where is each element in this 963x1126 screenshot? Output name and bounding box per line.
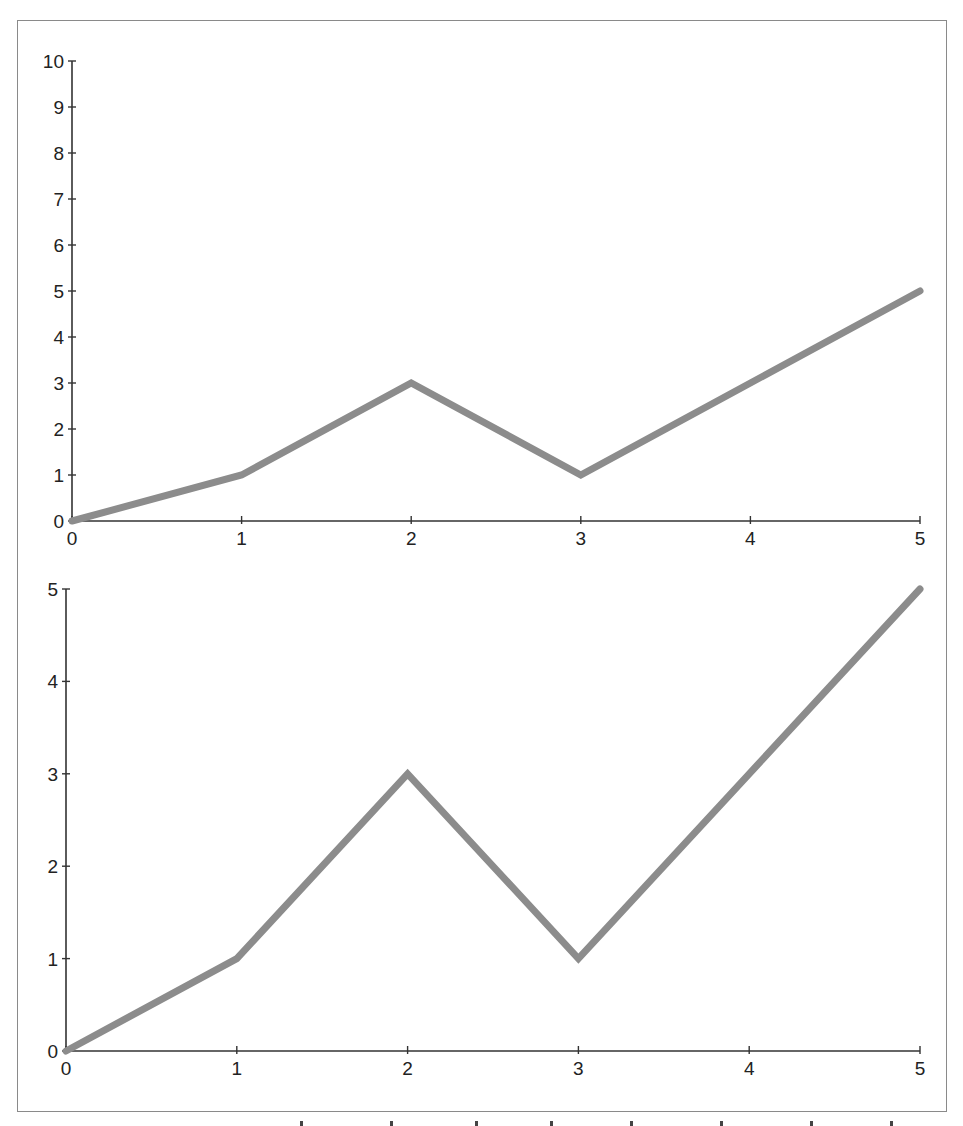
charts-canvas: 012345678910012345012345012345	[0, 0, 963, 1126]
y-tick-label: 5	[53, 281, 64, 302]
y-tick-label: 0	[53, 511, 64, 532]
x-tick-label: 4	[745, 528, 756, 549]
y-tick-label: 2	[53, 419, 64, 440]
bottom-chart: 012345012345	[47, 579, 925, 1079]
x-tick-label: 1	[236, 528, 247, 549]
y-tick-label: 8	[53, 143, 64, 164]
y-tick-label: 4	[47, 671, 58, 692]
y-tick-label: 1	[53, 465, 64, 486]
cutoff-caption-text	[300, 1118, 920, 1126]
y-tick-label: 4	[53, 327, 64, 348]
y-tick-label: 3	[47, 764, 58, 785]
x-tick-label: 2	[402, 1058, 413, 1079]
top-chart: 012345678910012345	[43, 51, 925, 549]
x-tick-label: 5	[915, 528, 926, 549]
x-tick-label: 5	[915, 1058, 926, 1079]
x-tick-label: 3	[573, 1058, 584, 1079]
x-tick-label: 2	[406, 528, 417, 549]
y-tick-label: 10	[43, 51, 64, 72]
y-tick-label: 1	[47, 949, 58, 970]
data-line	[66, 589, 920, 1051]
y-tick-label: 7	[53, 189, 64, 210]
x-tick-label: 3	[576, 528, 587, 549]
y-tick-label: 3	[53, 373, 64, 394]
y-tick-label: 6	[53, 235, 64, 256]
x-tick-label: 0	[61, 1058, 72, 1079]
y-tick-label: 0	[47, 1041, 58, 1062]
x-tick-label: 0	[67, 528, 78, 549]
data-line	[72, 291, 920, 521]
y-tick-label: 5	[47, 579, 58, 600]
y-tick-label: 2	[47, 856, 58, 877]
x-tick-label: 1	[232, 1058, 243, 1079]
y-tick-label: 9	[53, 97, 64, 118]
x-tick-label: 4	[744, 1058, 755, 1079]
